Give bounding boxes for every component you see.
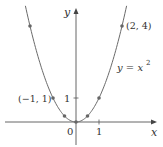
data-point <box>86 114 90 118</box>
point-label-2-4: (2, 4) <box>126 20 152 31</box>
y-tick-label-1: 1 <box>64 93 70 104</box>
x-axis <box>5 120 157 125</box>
y-axis <box>74 8 79 145</box>
x-tick-label-1: 1 <box>96 126 102 137</box>
x-axis-arrow-icon <box>151 120 157 125</box>
data-point <box>97 96 101 100</box>
data-point <box>120 24 124 28</box>
equation-label: y = x 2 <box>116 59 150 73</box>
equation-text: y = x <box>116 62 143 73</box>
point-label-neg1-1: (−1, 1) <box>18 93 52 104</box>
x-axis-label: x <box>151 126 158 139</box>
y-axis-arrow-icon <box>74 8 79 14</box>
data-point <box>63 114 67 118</box>
data-point <box>74 120 78 124</box>
data-point <box>28 24 32 28</box>
origin-label: 0 <box>67 126 73 137</box>
data-point <box>51 96 55 100</box>
parabola-plot: y x 0 1 1 (2, 4) (−1, 1) y = x 2 <box>0 0 163 147</box>
y-axis-label: y <box>63 6 71 19</box>
equation-exponent: 2 <box>146 59 150 67</box>
